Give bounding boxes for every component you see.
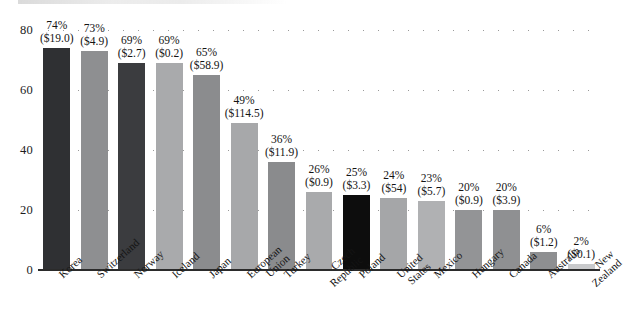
bar-amount: ($54) (381, 182, 406, 195)
bar-group: 20%($0.9) (455, 30, 482, 270)
bar-group: 49%($114.5) (231, 30, 258, 270)
bar-amount: ($0.2) (155, 47, 183, 60)
bar-percent: 23% (417, 172, 445, 185)
bar-amount: ($1.2) (530, 236, 558, 249)
bar-group: 23%($5.7) (418, 30, 445, 270)
x-axis-labels: KoreaSwitzerlandNorwayIcelandJapanEurope… (38, 272, 600, 332)
bar-value-label: 65%($58.9) (190, 46, 224, 72)
bar-value-label: 49%($114.5) (225, 94, 264, 120)
bar-percent: 74% (40, 19, 74, 32)
bar-percent: 69% (118, 34, 146, 47)
bar-percent: 6% (530, 223, 558, 236)
bar-amount: ($11.9) (265, 146, 298, 159)
bar-amount: ($3.3) (343, 179, 371, 192)
y-axis-ticks: 020406080 (0, 30, 33, 270)
bar-percent: 20% (455, 181, 483, 194)
bar-group: 2%($0.1) (568, 30, 595, 270)
bar-group: 24%($54) (380, 30, 407, 270)
bar-percent: 24% (381, 169, 406, 182)
bar-value-label: 20%($0.9) (455, 181, 483, 207)
bar-value-label: 74%($19.0) (40, 19, 74, 45)
bar-percent: 49% (225, 94, 264, 107)
bar-group: 26%($0.9) (306, 30, 333, 270)
y-tick-label: 80 (20, 23, 33, 38)
bar-percent: 36% (265, 133, 298, 146)
bar-value-label: 36%($11.9) (265, 133, 298, 159)
bar-group: 36%($11.9) (268, 30, 295, 270)
bar-group: 20%($3.9) (493, 30, 520, 270)
bar[interactable] (193, 75, 220, 270)
cropped-text-artifact (18, 0, 288, 4)
bar-amount: ($5.7) (417, 185, 445, 198)
bar-amount: ($4.9) (80, 35, 108, 48)
bar-value-label: 23%($5.7) (417, 172, 445, 198)
bar-group: 73%($4.9) (81, 30, 108, 270)
bar-value-label: 69%($0.2) (155, 34, 183, 60)
bar-amount: ($2.7) (118, 47, 146, 60)
bar-value-label: 73%($4.9) (80, 22, 108, 48)
bar-value-label: 69%($2.7) (118, 34, 146, 60)
y-tick-label: 0 (26, 263, 33, 278)
bar[interactable] (156, 63, 183, 270)
bar[interactable] (43, 48, 70, 270)
bar-amount: ($0.9) (305, 176, 333, 189)
y-tick-label: 40 (20, 143, 33, 158)
bar-percent: 26% (305, 163, 333, 176)
bar-group: 69%($2.7) (118, 30, 145, 270)
bar-value-label: 6%($1.2) (530, 223, 558, 249)
bar-group: 25%($3.3) (343, 30, 370, 270)
bar-group: 74%($19.0) (43, 30, 70, 270)
bar-amount: ($58.9) (190, 59, 224, 72)
bar-value-label: 24%($54) (381, 169, 406, 195)
bar[interactable] (231, 123, 258, 270)
y-tick-label: 60 (20, 83, 33, 98)
bars-layer: 74%($19.0)73%($4.9)69%($2.7)69%($0.2)65%… (38, 30, 600, 270)
y-tick-label: 20 (20, 203, 33, 218)
bar-value-label: 20%($3.9) (492, 181, 520, 207)
bar-group: 69%($0.2) (156, 30, 183, 270)
bar-percent: 65% (190, 46, 224, 59)
bar-percent: 25% (343, 166, 371, 179)
bar-group: 65%($58.9) (193, 30, 220, 270)
bar-value-label: 26%($0.9) (305, 163, 333, 189)
bar-percent: 20% (492, 181, 520, 194)
bar[interactable] (81, 51, 108, 270)
bar-value-label: 25%($3.3) (343, 166, 371, 192)
bar-amount: ($114.5) (225, 107, 264, 120)
bar-amount: ($3.9) (492, 194, 520, 207)
bar-amount: ($19.0) (40, 32, 74, 45)
bar-group: 6%($1.2) (530, 30, 557, 270)
bar-percent: 73% (80, 22, 108, 35)
bar-amount: ($0.9) (455, 194, 483, 207)
bar-percent: 69% (155, 34, 183, 47)
